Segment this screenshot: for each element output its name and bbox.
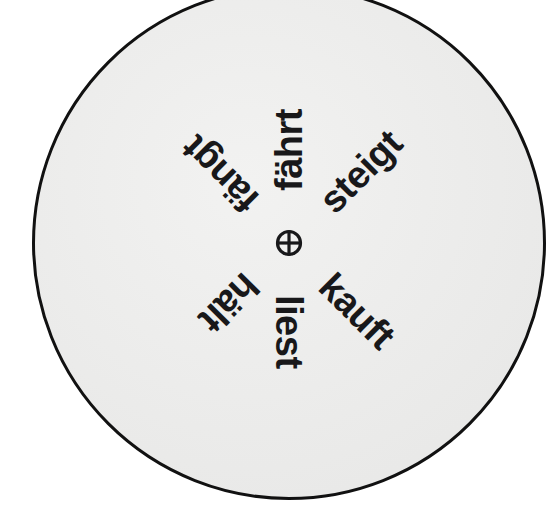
word-label-fahrt: fährt [270, 109, 308, 191]
word-label-liest: liest [270, 295, 308, 369]
figure-canvas: fährt steigt kauft liest hält fängt [0, 0, 559, 519]
circled-plus-icon [274, 228, 304, 258]
